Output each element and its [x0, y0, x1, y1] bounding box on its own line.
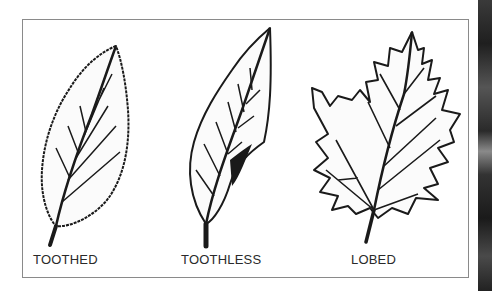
background-photo-edge: [478, 0, 492, 291]
lobed-leaf-illustration: [308, 30, 468, 245]
label-toothless: TOOTHLESS: [181, 252, 261, 267]
label-lobed: LOBED: [351, 252, 396, 267]
toothless-leaf-illustration: [180, 24, 280, 249]
label-toothed: TOOTHED: [33, 252, 98, 267]
toothed-leaf-illustration: [30, 40, 140, 250]
